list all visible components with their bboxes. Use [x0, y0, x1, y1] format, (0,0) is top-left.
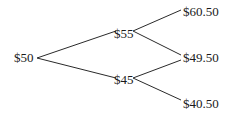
node-down-down-price: $40.50 — [183, 97, 219, 111]
node-up-up-price: $60.50 — [183, 5, 219, 19]
binomial-tree-diagram: $50 $55 $45 $60.50 $49.50 $40.50 — [0, 0, 239, 115]
edge-down-to-downdown — [133, 78, 181, 100]
edge-root-to-up — [37, 31, 116, 58]
node-down-price: $45 — [114, 73, 134, 87]
edge-up-to-upup — [133, 10, 181, 31]
edge-down-to-updown — [133, 60, 181, 78]
node-up-price: $55 — [114, 27, 134, 41]
edge-up-to-updown — [133, 31, 181, 55]
node-up-down-price: $49.50 — [183, 51, 219, 65]
edge-root-to-down — [37, 58, 116, 78]
node-root-price: $50 — [14, 51, 34, 65]
